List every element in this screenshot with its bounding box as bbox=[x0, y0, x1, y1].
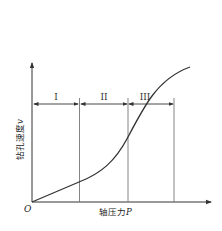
drilling-speed-diagram: I II III O 轴压力P 钻孔速度v bbox=[0, 0, 222, 231]
x-axis-label-text: 轴压力 bbox=[99, 207, 126, 217]
speed-pressure-curve bbox=[32, 67, 190, 202]
origin-label: O bbox=[24, 204, 32, 214]
y-axis-label-text: 钻孔速度 bbox=[15, 124, 25, 160]
region-2-label: II bbox=[100, 92, 108, 102]
y-axis-label: 钻孔速度v bbox=[15, 119, 25, 160]
y-axis-var: v bbox=[15, 119, 25, 124]
x-axis-label: 轴压力P bbox=[99, 207, 132, 217]
region-1-label: I bbox=[54, 92, 58, 102]
x-axis-var: P bbox=[125, 207, 132, 217]
